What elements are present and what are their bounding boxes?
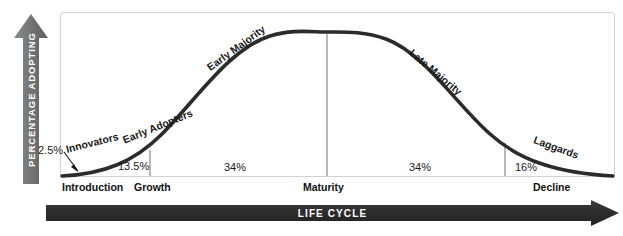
plot-area (60, 12, 615, 177)
percent-early-adopters: 13.5% (118, 160, 149, 172)
percent-early-majority: 34% (224, 161, 246, 173)
stage-label-growth: Growth (134, 181, 171, 193)
percent-innovators: 2.5% (38, 144, 63, 156)
adoption-lifecycle-diagram: PERCENTAGE ADOPTING Innovators Early Ado… (0, 0, 623, 236)
stage-label-maturity: Maturity (303, 181, 344, 193)
y-axis-arrow (14, 14, 48, 184)
percent-laggards: 16% (515, 161, 537, 173)
percent-late-majority: 34% (409, 161, 431, 173)
stage-label-introduction: Introduction (62, 181, 123, 193)
stage-label-decline: Decline (533, 181, 570, 193)
x-axis-arrow (46, 200, 619, 226)
